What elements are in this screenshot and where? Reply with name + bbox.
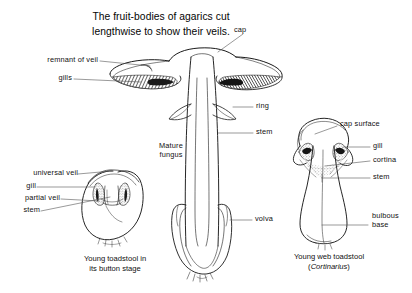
bulbous-base-line-1: bulbous [372, 211, 399, 220]
caption-button-stage: Young toadstool in its button stage [52, 254, 178, 275]
label-ring: ring [256, 102, 269, 111]
label-cap-surface: cap surface [340, 120, 380, 129]
label-cortina: cortina [373, 156, 396, 165]
label-remnant-of-veil: remnant of veil [0, 56, 98, 65]
caption-paren-close: ) [347, 262, 350, 271]
label-mature-fungus: Mature fungus [148, 142, 194, 159]
bulbous-base-line-2: base [372, 220, 389, 229]
label-stem-web: stem [373, 173, 390, 182]
label-cap: cap [234, 26, 246, 35]
caption-button-line-2: its button stage [89, 264, 141, 273]
title-line-1: The fruit-bodies of agarics cut [92, 11, 229, 22]
label-bulbous-base: bulbous base [372, 212, 399, 229]
label-stem-mature: stem [256, 128, 273, 137]
caption-button-line-1: Young toadstool in [84, 254, 146, 263]
caption-web-toadstool: Young web toadstool (Cortinarius) [266, 252, 392, 273]
mature-fungus-line-2: fungus [159, 150, 182, 159]
label-universal-veil: universal veil [0, 169, 78, 178]
label-gill-button: gill [0, 182, 36, 191]
label-partial-veil: partial veil [0, 194, 60, 203]
agaric-veils-diagram: The fruit-bodies of agarics cut lengthwi… [0, 0, 412, 293]
mature-fungus-line-1: Mature [159, 141, 183, 150]
label-gills: gills [0, 74, 72, 83]
caption-genus: Cortinarius [311, 262, 348, 271]
diagram-artwork [0, 0, 412, 293]
title-line-2: lengthwise to show their veils. [92, 26, 230, 37]
label-stem-button: stem [0, 206, 40, 215]
caption-web-line-1: Young web toadstool [294, 252, 364, 261]
label-volva: volva [255, 215, 273, 224]
label-gill-web: gill [373, 142, 383, 151]
